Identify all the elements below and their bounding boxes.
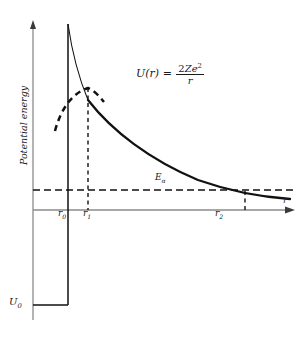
y-axis-arrow-icon — [30, 20, 36, 29]
x-axis-label: r — [283, 195, 287, 205]
tick-label-r0-sub: 0 — [62, 213, 66, 220]
formula-lhs: U(r) — [136, 67, 159, 80]
e-alpha-label: Eα — [155, 172, 166, 184]
tick-label-r0: r0 — [58, 208, 66, 220]
y-axis-label: Potential energy — [18, 81, 29, 171]
tick-label-r2: r2 — [215, 208, 223, 220]
x-axis-arrow-icon — [285, 207, 295, 214]
header-text-fragment — [62, 0, 242, 7]
e-alpha-label-sub: α — [162, 177, 166, 184]
coulomb-curve-main — [88, 100, 290, 199]
tick-label-r1-sub: 1 — [87, 213, 91, 220]
tick-label-r2-sub: 2 — [219, 213, 223, 220]
coulomb-potential-formula: U(r) = 2Ze2 r — [136, 62, 205, 86]
formula-denominator: r — [176, 74, 204, 86]
formula-equals: = — [163, 67, 172, 80]
formula-exponent: 2 — [198, 62, 202, 70]
potential-energy-diagram — [0, 0, 300, 337]
u0-label-sub: 0 — [17, 302, 21, 310]
u0-label: U0 — [9, 296, 22, 310]
formula-Z: Z — [185, 63, 192, 74]
tick-label-r1: r1 — [83, 208, 91, 220]
e-alpha-label-base: E — [155, 172, 162, 182]
formula-numerator: 2Ze2 — [176, 62, 204, 74]
formula-fraction: 2Ze2 r — [176, 62, 204, 86]
